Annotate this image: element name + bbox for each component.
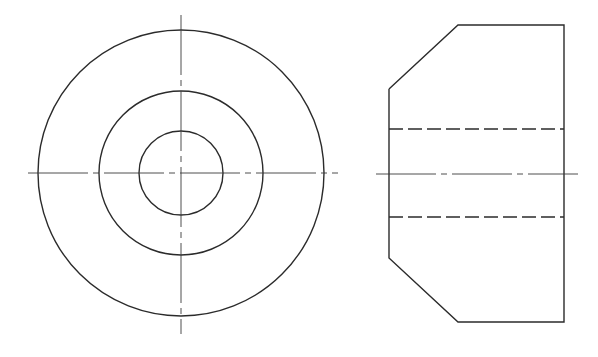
engineering-drawing — [0, 0, 598, 357]
side-view-outline — [389, 25, 564, 322]
drawing-canvas — [0, 0, 598, 357]
front-view — [28, 15, 338, 334]
side-view — [376, 25, 578, 322]
